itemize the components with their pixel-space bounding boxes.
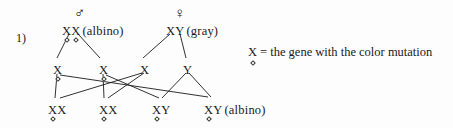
allele-letter: X	[48, 104, 57, 117]
allele-letter: X	[99, 104, 108, 117]
allele-mutated-x: X	[99, 64, 108, 77]
phenotype-label: (gray)	[186, 24, 218, 38]
allele-y: Y	[175, 25, 184, 38]
allele-letter: X	[152, 104, 161, 117]
allele-y: Y	[161, 104, 170, 117]
allele-letter: Y	[175, 25, 184, 38]
phenotype-label: (albino)	[82, 24, 123, 38]
female-symbol-icon: ♀	[174, 6, 185, 21]
allele-letter: Y	[213, 104, 222, 117]
genetics-cross-diagram: 1) ♂ XX(albino) ♀ XY(gray) X X X Y XX XX…	[0, 0, 453, 128]
offspring-genotype: XY(albino)	[204, 104, 266, 117]
allele-letter: X	[99, 64, 108, 77]
allele-mutated-x: X	[71, 25, 80, 38]
allele-letter: X	[166, 25, 175, 38]
allele-letter: Y	[183, 64, 192, 77]
allele-y: Y	[183, 64, 192, 77]
gamete-allele: X	[140, 64, 149, 77]
legend-description: = the gene with the color mutation	[260, 45, 432, 59]
allele-mutated-x: X	[99, 104, 108, 117]
allele-x: X	[108, 104, 117, 117]
parent-father-genotype: XX(albino)	[62, 25, 124, 38]
legend-mutation-key: X= the gene with the color mutation	[248, 45, 432, 60]
allele-mutated-x: X	[62, 25, 71, 38]
allele-letter: X	[62, 25, 71, 38]
allele-mutated-x: X	[204, 104, 213, 117]
allele-mutated-x: X	[152, 104, 161, 117]
offspring-genotype: XX	[99, 104, 117, 117]
allele-x: X	[140, 64, 149, 77]
gamete-allele: X	[99, 64, 108, 77]
allele-x: X	[166, 25, 175, 38]
male-symbol-icon: ♂	[74, 6, 85, 21]
inheritance-line	[60, 75, 208, 97]
allele-letter: X	[204, 104, 213, 117]
allele-letter: X	[108, 104, 117, 117]
offspring-genotype: XY	[152, 104, 170, 117]
parent-mother-genotype: XY(gray)	[166, 25, 218, 38]
gamete-allele: Y	[183, 64, 192, 77]
gamete-allele: X	[53, 64, 62, 77]
phenotype-label: (albino)	[224, 103, 265, 117]
allele-mutated-x: X	[248, 45, 257, 60]
allele-letter: X	[53, 64, 62, 77]
inheritance-line	[189, 73, 211, 97]
allele-letter: Y	[161, 104, 170, 117]
allele-x: X	[57, 104, 66, 117]
allele-letter: X	[140, 64, 149, 77]
inheritance-line	[108, 73, 144, 98]
allele-y: Y	[213, 104, 222, 117]
allele-mutated-x: X	[53, 64, 62, 77]
allele-letter: X	[57, 104, 66, 117]
allele-letter: X	[248, 45, 257, 60]
inheritance-line	[106, 75, 159, 98]
item-number-label: 1)	[16, 31, 26, 46]
offspring-genotype: XX	[48, 104, 66, 117]
allele-mutated-x: X	[48, 104, 57, 117]
allele-letter: X	[71, 25, 80, 38]
